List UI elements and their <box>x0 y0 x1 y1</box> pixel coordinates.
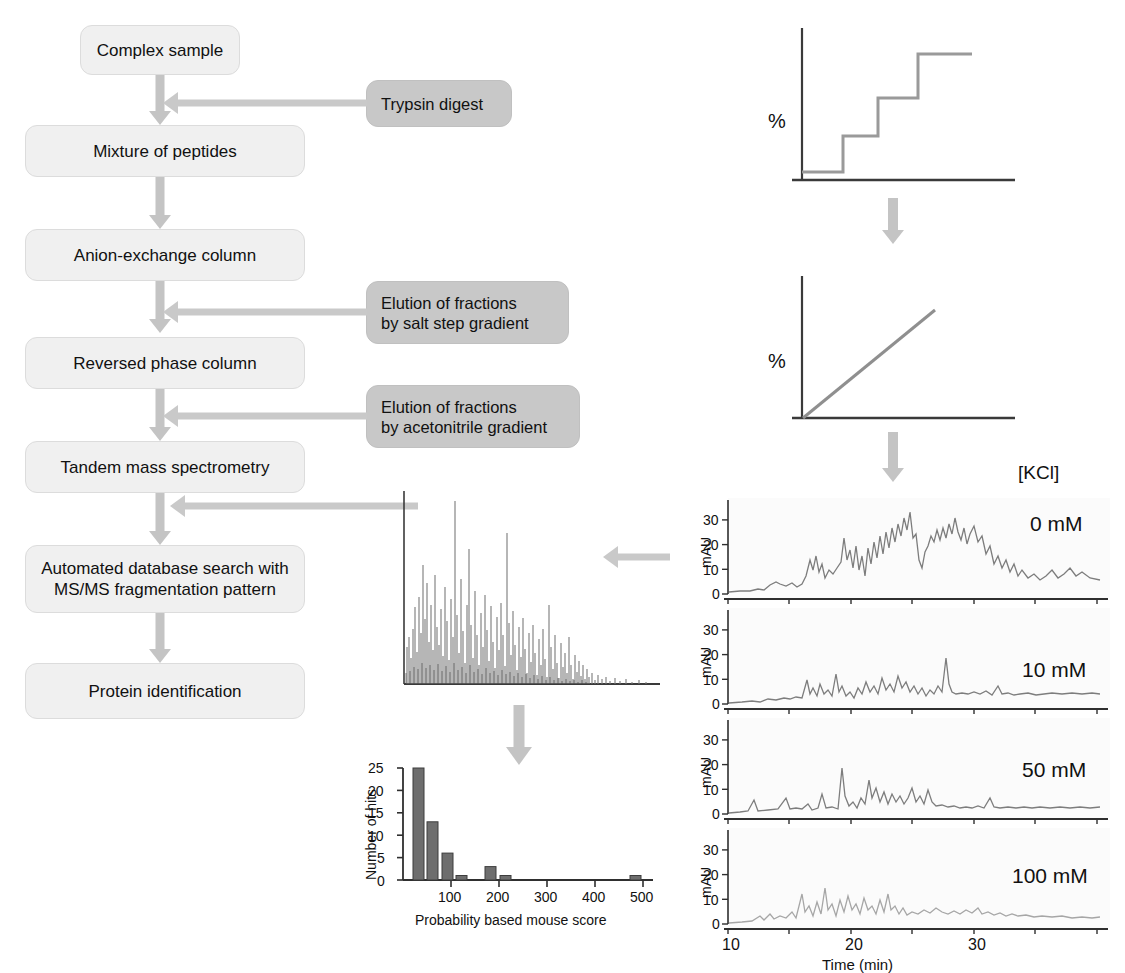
linear-gradient-plot: % <box>790 268 1025 433</box>
bar <box>413 768 424 880</box>
histogram-bars <box>413 768 641 880</box>
ytick-10: 10 <box>703 672 719 688</box>
ytick-20: 20 <box>703 757 719 773</box>
histogram-xtick-300: 300 <box>534 889 557 905</box>
chromatogram-label-100mM: 100 mM <box>1012 864 1088 888</box>
histogram-ylabel: Number of hits <box>363 789 379 880</box>
arrow-acetonitrile-to-flow <box>163 405 367 427</box>
chromatogram-panel-0mM: mAU 0 10 20 30 0 mM <box>700 498 1110 606</box>
chromatogram-xtick-10: 10 <box>722 936 740 954</box>
arrow-trypsin-to-flow <box>163 92 367 114</box>
y-ticks <box>722 520 728 594</box>
flow-step-label: Anion-exchange column <box>74 245 256 266</box>
y-ticks <box>722 850 728 924</box>
histogram-xtick-200: 200 <box>486 889 509 905</box>
flow-step-label: Complex sample <box>97 40 224 61</box>
ytick-30: 30 <box>703 512 719 528</box>
flow-step-label: Mixture of peptides <box>93 141 237 162</box>
arrow-linear-to-chromatograms <box>880 432 906 484</box>
linear-gradient-ylabel: % <box>768 350 786 373</box>
arrow-tandem-to-database <box>148 493 172 545</box>
histogram-xtick-400: 400 <box>582 889 605 905</box>
flow-step-anion-exchange-column[interactable]: Anion-exchange column <box>25 229 305 281</box>
bar <box>456 876 467 881</box>
bar <box>442 853 453 880</box>
chromatogram-label-10mM: 10 mM <box>1022 658 1086 682</box>
bar <box>485 867 496 880</box>
ytick-10: 10 <box>703 782 719 798</box>
arrow-spectrum-to-database <box>170 495 418 517</box>
flow-step-label: Automated database search with MS/MS fra… <box>36 558 294 600</box>
chromatogram-label-0mM: 0 mM <box>1030 512 1083 536</box>
flow-step-tandem-mass-spectrometry[interactable]: Tandem mass spectrometry <box>25 441 305 493</box>
annotation-label: Elution of fractions by acetonitrile gra… <box>381 397 547 437</box>
chromatogram-panel-100mM: mAU 0 10 20 30 100 mM 10 20 30 Time (min… <box>700 828 1110 936</box>
flow-step-label: Reversed phase column <box>73 353 256 374</box>
annotation-salt-step-gradient[interactable]: Elution of fractions by salt step gradie… <box>366 281 569 344</box>
ms-ms-spectrum-svg <box>398 487 668 702</box>
flow-step-mixture-of-peptides[interactable]: Mixture of peptides <box>25 125 305 177</box>
linear-gradient-svg <box>790 268 1025 433</box>
histogram-xtick-500: 500 <box>630 889 653 905</box>
y-ticks <box>722 630 728 704</box>
ytick-20: 20 <box>703 647 719 663</box>
ytick-30: 30 <box>703 842 719 858</box>
arrow-mixture-to-anion <box>148 177 172 229</box>
chromatogram-panel-10mM: mAU 0 10 20 30 10 mM <box>700 608 1110 716</box>
probability-score-histogram-plot: 0 5 10 15 20 25 100 200 300 400 500 Numb… <box>355 762 660 952</box>
chromatogram-label-50mM: 50 mM <box>1022 758 1086 782</box>
y-ticks <box>722 740 728 814</box>
x-ticks <box>451 880 643 887</box>
ytick-30: 30 <box>703 622 719 638</box>
ytick-20: 20 <box>703 867 719 883</box>
flow-step-automated-database-search[interactable]: Automated database search with MS/MS fra… <box>25 545 305 613</box>
flow-step-label: Protein identification <box>88 681 241 702</box>
ytick-10: 10 <box>703 892 719 908</box>
annotation-trypsin-digest[interactable]: Trypsin digest <box>366 80 512 127</box>
step-gradient-svg <box>790 20 1025 195</box>
histogram-ytick-25: 25 <box>368 760 384 776</box>
ytick-0: 0 <box>712 806 720 822</box>
chromatogram-xtick-20: 20 <box>845 936 863 954</box>
ytick-30: 30 <box>703 732 719 748</box>
flow-step-label: Tandem mass spectrometry <box>61 457 270 478</box>
annotation-acetonitrile-gradient[interactable]: Elution of fractions by acetonitrile gra… <box>366 385 580 448</box>
ytick-0: 0 <box>712 916 720 932</box>
chromatogram-xtick-30: 30 <box>968 936 986 954</box>
step-gradient-plot: % <box>790 20 1025 195</box>
arrow-salt-gradient-to-flow <box>163 301 367 323</box>
bar <box>630 876 641 881</box>
chromatograms-header-kcl: [KCl] <box>1018 462 1059 484</box>
ytick-20: 20 <box>703 537 719 553</box>
chromatogram-panel-50mM: mAU 0 10 20 30 50 mM <box>700 718 1110 826</box>
ms-ms-spectrum-plot <box>398 487 668 702</box>
annotation-label: Elution of fractions by salt step gradie… <box>381 293 529 333</box>
arrow-step-to-linear-gradient <box>880 198 906 246</box>
bar <box>427 822 438 880</box>
spectrum-peaks <box>407 501 646 684</box>
ytick-10: 10 <box>703 562 719 578</box>
linear-trace <box>803 310 935 418</box>
chromatogram-xlabel: Time (min) <box>822 956 893 973</box>
histogram-xtick-100: 100 <box>438 889 461 905</box>
arrow-database-to-protein <box>148 613 172 663</box>
flow-step-complex-sample[interactable]: Complex sample <box>80 25 240 75</box>
histogram-xlabel: Probability based mouse score <box>415 912 606 928</box>
annotation-label: Trypsin digest <box>381 94 483 114</box>
bar <box>500 876 511 881</box>
arrow-spectrum-to-histogram <box>505 705 533 767</box>
step-gradient-ylabel: % <box>768 110 786 133</box>
ytick-0: 0 <box>712 586 720 602</box>
ytick-0: 0 <box>712 696 720 712</box>
flow-step-reversed-phase-column[interactable]: Reversed phase column <box>25 337 305 389</box>
flow-step-protein-identification[interactable]: Protein identification <box>25 663 305 719</box>
step-trace <box>802 54 972 172</box>
